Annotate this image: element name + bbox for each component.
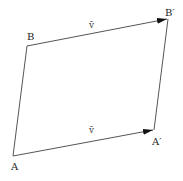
vector-a-to-aprime: [13, 130, 153, 156]
diagram-canvas: B B′ A′ A v̄ v̄: [0, 0, 183, 181]
vector-b-to-bprime: [27, 19, 167, 46]
label-vector-top: v̄: [88, 20, 95, 30]
label-a: A: [10, 161, 19, 172]
label-aprime: A′: [151, 136, 162, 147]
label-vector-bottom: v̄: [88, 125, 95, 135]
segment-a-b: [13, 46, 27, 156]
segment-aprime-bprime: [154, 19, 168, 130]
label-bprime: B′: [165, 7, 175, 18]
label-b: B: [27, 31, 34, 42]
